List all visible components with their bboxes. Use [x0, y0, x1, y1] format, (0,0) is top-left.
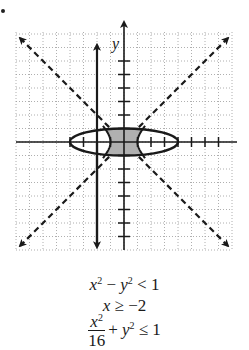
inequality-1: x2 − y2 < 1	[0, 276, 249, 293]
y-axis-label: y	[110, 35, 120, 53]
graph-plot: y	[0, 0, 249, 270]
inequality-2: x ≥ −2	[0, 297, 249, 314]
inequality-3: x216+ y2 ≤ 1	[0, 313, 249, 349]
